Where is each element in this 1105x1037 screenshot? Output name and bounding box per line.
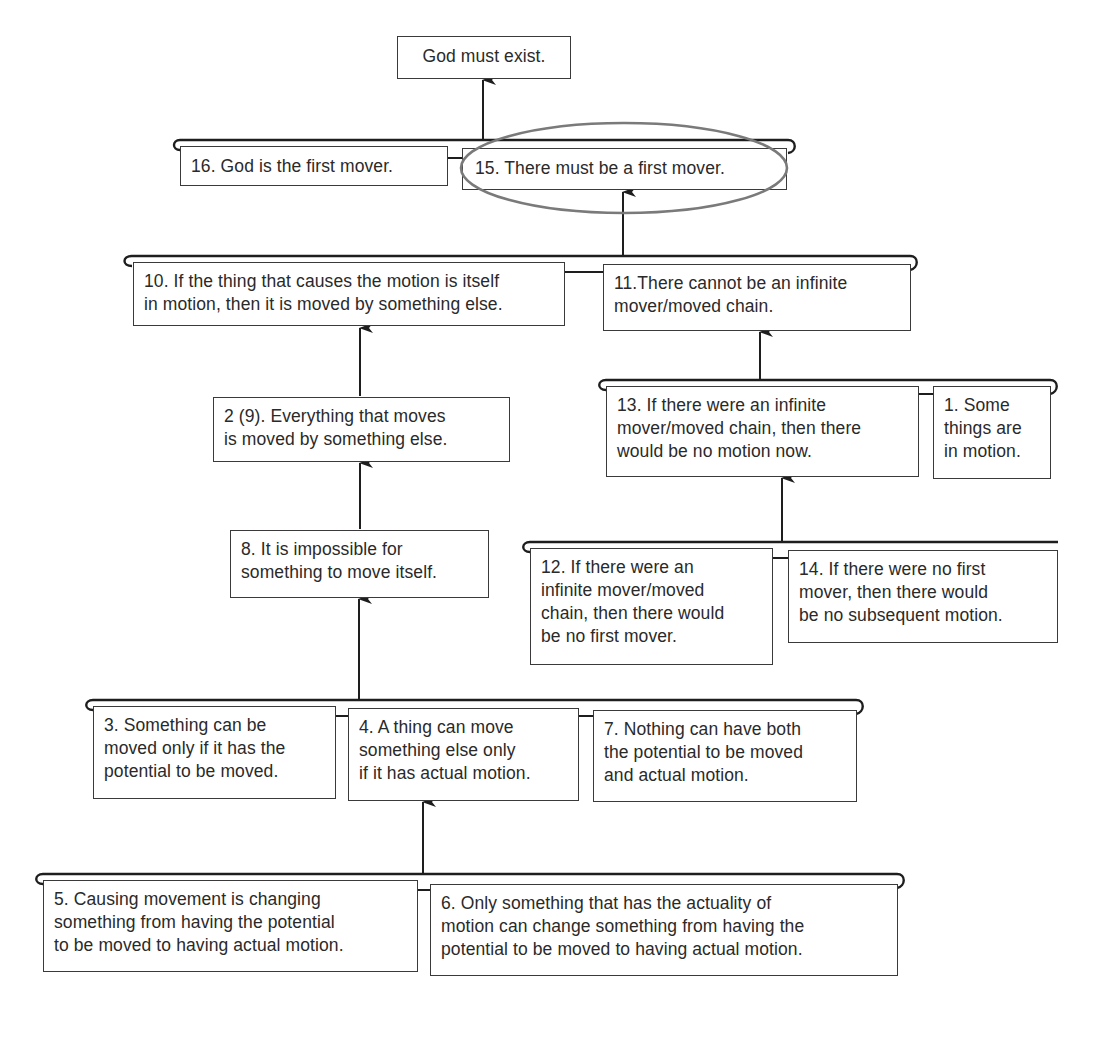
premise-8-box: 8. It is impossible for something to mov…: [230, 530, 489, 598]
premise-6-box: 6. Only something that has the actuality…: [430, 884, 898, 976]
premise-16-box: 16. God is the first mover.: [180, 146, 448, 186]
conclusion-box: God must exist.: [397, 36, 571, 79]
premise-14-box: 14. If there were no first mover, then t…: [788, 550, 1058, 643]
premise-5-box: 5. Causing movement is changing somethin…: [43, 880, 418, 972]
premise-4-box: 4. A thing can move something else only …: [348, 708, 579, 801]
premise-10-box: 10. If the thing that causes the motion …: [133, 262, 565, 326]
premise-7-box: 7. Nothing can have both the potential t…: [593, 710, 857, 802]
premise-3-box: 3. Something can be moved only if it has…: [93, 706, 336, 799]
premise-2-9-box: 2 (9). Everything that moves is moved by…: [213, 397, 510, 462]
premise-1-box: 1. Some things are in motion.: [933, 386, 1051, 479]
premise-15-box: 15. There must be a first mover.: [462, 148, 787, 190]
argument-map: God must exist. 16. God is the first mov…: [0, 0, 1105, 1037]
premise-13-box: 13. If there were an infinite mover/move…: [606, 386, 919, 477]
premise-11-box: 11.There cannot be an infinite mover/mov…: [603, 264, 911, 331]
premise-12-box: 12. If there were an infinite mover/move…: [530, 548, 773, 665]
